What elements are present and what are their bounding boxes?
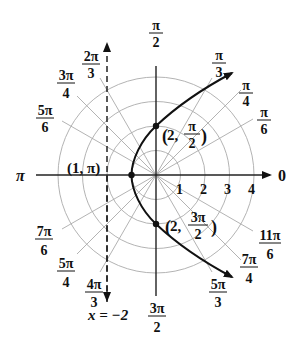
svg-text:4: 4 (246, 271, 253, 286)
svg-text:4: 4 (248, 182, 255, 197)
svg-text:3π: 3π (191, 210, 206, 225)
angle-label-4pi-3: 4π 3 (85, 277, 103, 310)
svg-text:4: 4 (63, 275, 70, 290)
svg-text:6: 6 (41, 243, 48, 258)
svg-text:2,: 2, (167, 127, 179, 143)
svg-text:π: π (260, 105, 268, 120)
angle-label-11pi-6: 11π 6 (259, 228, 281, 262)
angle-label-pi-6: π 6 (257, 105, 271, 137)
svg-text:3: 3 (91, 295, 98, 310)
label-vertex: (1, π) (67, 160, 100, 177)
svg-text:5π: 5π (59, 256, 74, 271)
svg-text:π: π (242, 78, 250, 93)
svg-text:2: 2 (153, 35, 160, 50)
svg-text:3: 3 (224, 182, 231, 197)
svg-text:3π: 3π (59, 68, 74, 83)
svg-text:3: 3 (215, 295, 222, 310)
point-top (153, 123, 159, 129)
svg-text:11π: 11π (260, 228, 281, 243)
angle-label-7pi-4: 7π 4 (240, 252, 258, 286)
svg-text:): ) (211, 217, 217, 238)
svg-text:7π: 7π (242, 252, 257, 267)
svg-text:4: 4 (63, 86, 70, 101)
polar-parabola-diagram: 1 2 3 4 0 π (1, π) ( 2, π 2 ) ( 2, 3π 2 … (0, 0, 304, 350)
svg-text:3: 3 (88, 66, 95, 81)
angle-label-5pi-6: 5π 6 (36, 103, 54, 135)
svg-text:π: π (215, 48, 223, 63)
svg-text:π: π (188, 119, 196, 134)
svg-text:4: 4 (243, 94, 250, 109)
svg-text:2,: 2, (170, 218, 182, 234)
angle-label-2pi-3: 2π 3 (82, 49, 100, 81)
svg-text:π: π (152, 18, 160, 33)
svg-text:2: 2 (189, 136, 196, 151)
svg-text:2: 2 (200, 182, 207, 197)
svg-text:): ) (201, 126, 207, 147)
svg-text:6: 6 (42, 120, 49, 135)
svg-text:6: 6 (267, 247, 274, 262)
svg-text:5π: 5π (38, 103, 53, 118)
svg-text:2: 2 (195, 227, 202, 242)
point-vertex (128, 172, 134, 178)
angle-label-7pi-6: 7π 6 (35, 224, 53, 258)
angle-label-3pi-4: 3π 4 (57, 68, 75, 101)
svg-text:7π: 7π (37, 224, 52, 239)
svg-text:6: 6 (261, 122, 268, 137)
svg-text:3π: 3π (150, 301, 165, 316)
label-zero: 0 (278, 167, 286, 184)
angle-label-pi-2: π 2 (149, 18, 163, 50)
label-pi: π (16, 167, 26, 184)
angle-label-5pi-3: 5π 3 (209, 277, 227, 310)
angle-label-pi-3: π 3 (212, 48, 226, 80)
svg-text:2: 2 (154, 320, 161, 335)
radial-tick-labels: 1 2 3 4 (176, 182, 255, 197)
angle-label-5pi-4: 5π 4 (57, 256, 75, 290)
svg-text:1: 1 (176, 182, 183, 197)
svg-text:4π: 4π (87, 277, 102, 292)
point-bottom (153, 221, 159, 227)
svg-text:2π: 2π (84, 49, 99, 64)
angle-label-pi-4: π 4 (239, 78, 253, 109)
svg-text:3: 3 (216, 65, 223, 80)
svg-text:5π: 5π (211, 277, 226, 292)
angle-label-3pi-2: 3π 2 (148, 301, 166, 335)
